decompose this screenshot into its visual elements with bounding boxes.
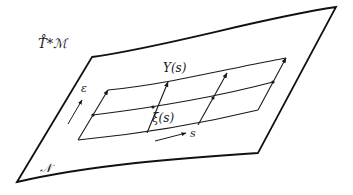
epsilon-direction-arrow	[68, 100, 82, 124]
manifold-diagram: T̊*ℳ 𝒩 Y(s) ξ(s) ε s	[0, 0, 353, 195]
grid-dot	[151, 105, 154, 108]
surface-label: 𝒩	[40, 161, 55, 175]
grid-dot	[271, 80, 274, 83]
s-direction-arrow	[155, 133, 186, 141]
surface-sheet	[17, 7, 336, 182]
grid-line-right	[258, 58, 286, 110]
ambient-space-label: T̊*ℳ	[38, 34, 69, 51]
grid-curve-middle	[93, 82, 273, 115]
grid-dot	[211, 96, 214, 99]
epsilon-label: ε	[81, 82, 87, 95]
s-label: s	[190, 127, 196, 140]
grid-dot	[91, 113, 94, 116]
top-curve-label: Y(s)	[163, 61, 187, 75]
middle-curve-label: ξ(s)	[152, 111, 174, 125]
